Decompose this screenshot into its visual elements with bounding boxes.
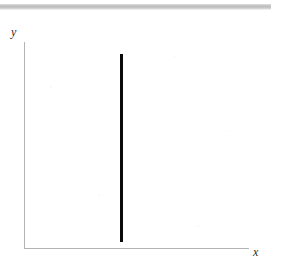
plot-area: y x (0, 0, 283, 267)
y-axis-label: y (11, 26, 16, 38)
x-axis-line (24, 248, 249, 249)
vertical-line-series (120, 54, 123, 241)
figure-root: y x (0, 0, 283, 267)
x-axis-label: x (253, 246, 258, 258)
y-axis-line (24, 42, 25, 249)
